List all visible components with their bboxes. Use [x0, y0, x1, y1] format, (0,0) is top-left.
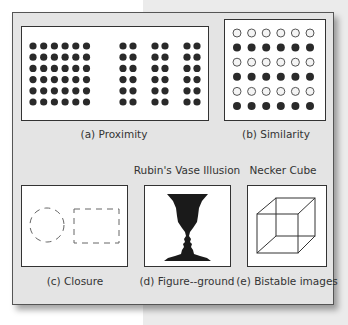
necker-cube-icon [257, 198, 315, 253]
caption-bistable: (e) Bistable images [236, 275, 338, 287]
